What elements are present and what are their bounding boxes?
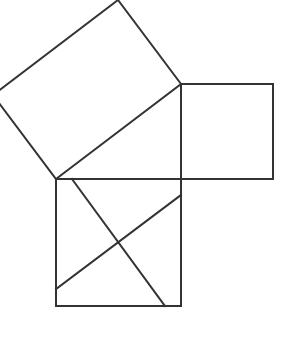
hypotenuse-square (0, 0, 181, 179)
cut-line-2 (56, 195, 181, 289)
right-leg-square (181, 84, 273, 179)
pythagorean-diagram (0, 0, 288, 346)
